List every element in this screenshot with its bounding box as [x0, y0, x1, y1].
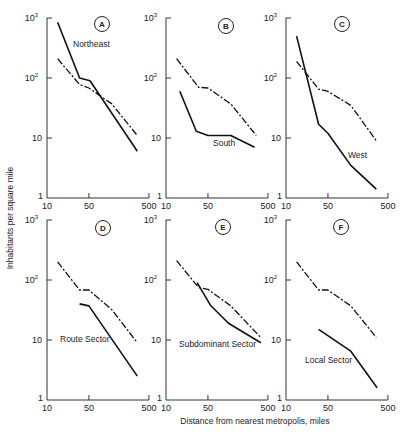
panel-e: 1031021011050500ESubdominant Sector	[144, 214, 276, 413]
x-tick-label: 50	[203, 201, 213, 211]
y-tick-label: 1	[157, 393, 162, 403]
series-label: Route Sector	[60, 334, 110, 344]
x-tick-label: 10	[161, 201, 171, 211]
series-line-reference	[297, 262, 377, 338]
x-tick-label: 500	[380, 403, 395, 413]
x-tick-label: 50	[323, 403, 333, 413]
figure-canvas: 1031021011050500ANortheast10310210110505…	[0, 0, 406, 433]
panel-d: 1031021011050500DRoute Sector	[25, 214, 157, 413]
x-tick-label: 500	[260, 403, 275, 413]
y-tick-label: 1	[157, 191, 162, 201]
y-tick-label: 1	[277, 393, 282, 403]
panel-letter: B	[223, 22, 229, 31]
y-tick-label: 10	[32, 133, 42, 143]
y-tick-label: 102	[144, 72, 158, 83]
x-tick-label: 500	[260, 201, 275, 211]
x-tick-label: 10	[281, 403, 291, 413]
series-line-reference	[58, 59, 138, 136]
panel-f: 1031021011050500FLocal Sector	[264, 214, 396, 413]
y-tick-label: 103	[264, 214, 278, 225]
series-label: Subdominant Sector	[179, 339, 256, 349]
x-tick-label: 50	[323, 201, 333, 211]
panel-letter: D	[100, 224, 106, 233]
panel-letter: F	[339, 223, 344, 232]
panels-group: 1031021011050500ANortheast10310210110505…	[25, 12, 396, 413]
y-axis-title: Inhabitants per square mile	[5, 166, 15, 269]
y-tick-label: 102	[25, 274, 39, 285]
y-tick-label: 103	[25, 214, 39, 225]
x-tick-label: 50	[84, 403, 94, 413]
panel-b: 1031021011050500BSouth	[144, 12, 276, 211]
x-tick-label: 10	[42, 403, 52, 413]
series-line-reference	[177, 261, 261, 338]
x-tick-label: 500	[141, 403, 156, 413]
x-tick-label: 500	[380, 201, 395, 211]
panel-letter: E	[220, 223, 226, 232]
y-tick-label: 102	[264, 274, 278, 285]
panel-letter: A	[99, 20, 105, 29]
series-line-reference	[297, 61, 377, 140]
y-tick-label: 10	[32, 335, 42, 345]
panel-c: 1031021011050500CWest	[264, 12, 396, 211]
y-tick-label: 103	[144, 214, 158, 225]
y-tick-label: 102	[144, 274, 158, 285]
series-label: South	[213, 138, 235, 148]
x-tick-label: 500	[141, 201, 156, 211]
panel-a: 1031021011050500ANortheast	[25, 12, 157, 211]
y-tick-label: 10	[151, 133, 161, 143]
series-line-regional	[297, 36, 377, 189]
series-label: Local Sector	[305, 355, 352, 365]
series-label: Northeast	[73, 39, 110, 49]
y-tick-label: 10	[271, 335, 281, 345]
y-tick-label: 102	[264, 72, 278, 83]
y-tick-label: 103	[264, 12, 278, 23]
y-tick-label: 10	[271, 133, 281, 143]
y-tick-label: 103	[25, 12, 39, 23]
y-tick-label: 103	[144, 12, 158, 23]
x-axis-title: Distance from nearest metropolis, miles	[180, 416, 329, 426]
x-tick-label: 50	[84, 201, 94, 211]
series-line-regional	[197, 283, 261, 343]
x-tick-label: 10	[42, 201, 52, 211]
y-tick-label: 1	[38, 191, 43, 201]
x-tick-label: 10	[161, 403, 171, 413]
x-tick-label: 50	[203, 403, 213, 413]
series-label: West	[348, 150, 368, 160]
y-tick-label: 102	[25, 72, 39, 83]
y-tick-label: 1	[277, 191, 282, 201]
y-tick-label: 10	[151, 335, 161, 345]
panel-letter: C	[339, 20, 345, 29]
series-line-reference	[177, 59, 257, 136]
series-line-reference	[58, 262, 138, 343]
y-tick-label: 1	[38, 393, 43, 403]
x-tick-label: 10	[281, 201, 291, 211]
